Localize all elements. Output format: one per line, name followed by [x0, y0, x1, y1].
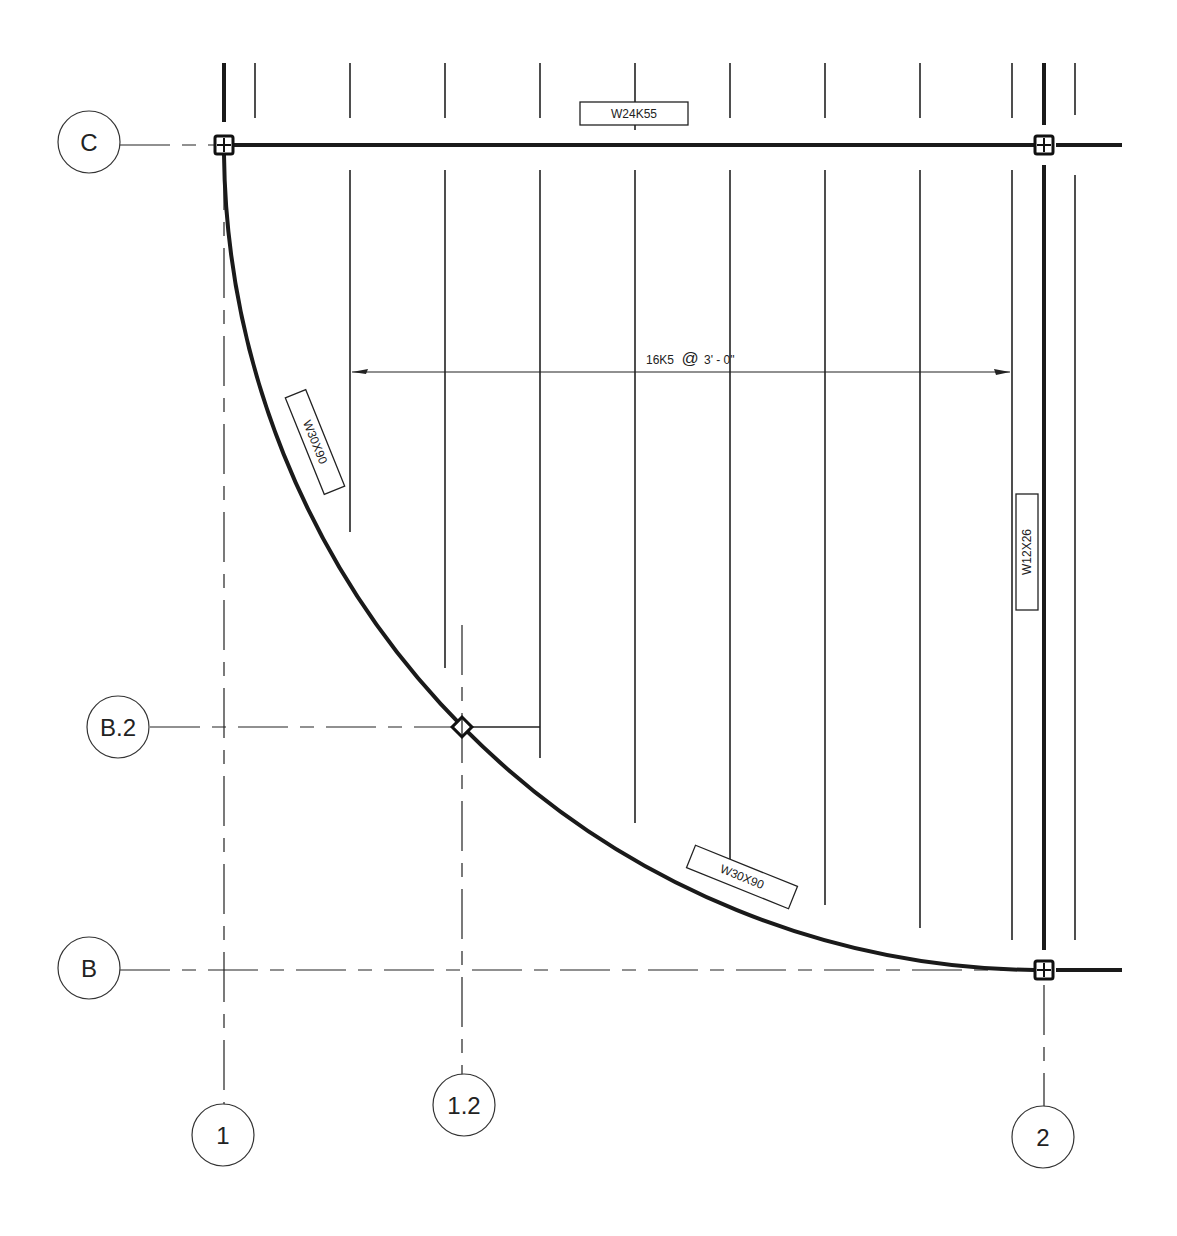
- grid-bubble-b2: B.2: [87, 696, 149, 758]
- column-b2: [1035, 961, 1053, 979]
- svg-text:B: B: [81, 955, 97, 982]
- svg-text:1: 1: [216, 1122, 229, 1149]
- grid-bubble-1-2: 1.2: [433, 1074, 495, 1136]
- beam-tag-top: W24K55: [580, 102, 688, 125]
- joist-designation: 16K5 @ 3' - 0": [646, 349, 735, 368]
- joists-below-beam: [350, 170, 1075, 940]
- svg-text:B.2: B.2: [100, 714, 136, 741]
- beam-tag-curved-lower: W30X90: [687, 845, 798, 908]
- svg-text:1.2: 1.2: [447, 1092, 480, 1119]
- column-c1: [215, 136, 233, 154]
- joist-dimension: 16K5 @ 3' - 0": [352, 349, 1010, 375]
- framing-plan: 16K5 @ 3' - 0" W24K55 W30X90 W30X90 W12X…: [0, 0, 1177, 1236]
- svg-text:2: 2: [1036, 1124, 1049, 1151]
- column-c2: [1035, 136, 1053, 154]
- grid-bubble-c: C: [58, 111, 120, 173]
- curved-beam: [224, 155, 1034, 970]
- svg-text:W24K55: W24K55: [611, 107, 657, 121]
- grid-bubble-2: 2: [1012, 1106, 1074, 1168]
- beam-tag-right: W12X26: [1016, 494, 1038, 610]
- grid-bubble-b: B: [58, 937, 120, 999]
- svg-text:C: C: [80, 129, 97, 156]
- grid-lines: [120, 145, 1044, 1110]
- grid-bubble-1: 1: [192, 1104, 254, 1166]
- svg-text:W12X26: W12X26: [1020, 529, 1034, 575]
